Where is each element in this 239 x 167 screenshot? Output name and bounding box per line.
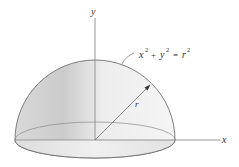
hemisphere-figure: y x r x 2 + y 2 = r 2 [0, 0, 239, 167]
base-front [15, 140, 175, 158]
x-axis-label: x [221, 134, 227, 145]
svg-text:+: + [151, 50, 156, 60]
svg-text:r: r [182, 49, 186, 60]
svg-text:2: 2 [145, 46, 148, 53]
svg-text:y: y [159, 49, 165, 60]
circle-equation: x 2 + y 2 = r 2 [138, 46, 190, 60]
svg-text:2: 2 [166, 46, 169, 53]
radius-label: r [135, 99, 139, 109]
equation-leader-line [122, 53, 134, 64]
svg-text:=: = [173, 50, 178, 60]
svg-text:2: 2 [187, 46, 190, 53]
y-axis-label: y [90, 6, 96, 17]
svg-text:x: x [138, 49, 144, 60]
